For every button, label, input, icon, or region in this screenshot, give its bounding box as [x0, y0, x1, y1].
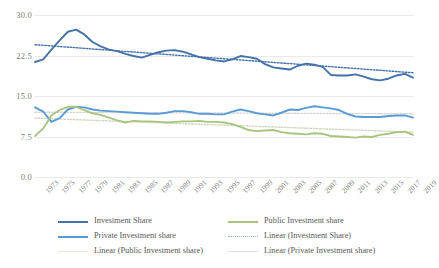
legend-swatch — [228, 221, 258, 223]
legend-swatch — [228, 236, 258, 237]
trendline — [35, 45, 413, 73]
x-axis-tick-label: 1977 — [76, 178, 93, 195]
series-line — [35, 107, 413, 138]
x-axis-tick-label: 1979 — [93, 178, 110, 195]
legend-swatch — [58, 236, 88, 238]
legend-label: Linear (Investment Share) — [264, 232, 351, 240]
x-axis-tick-label: 2013 — [372, 178, 389, 195]
x-axis-tick-label: 2017 — [405, 178, 422, 195]
x-axis-tick-label: 2019 — [421, 178, 438, 195]
legend-label: Investment Share — [94, 217, 152, 225]
x-axis-labels: 1973197519771979198119831985198719891991… — [35, 178, 413, 218]
x-axis-tick-label: 2009 — [339, 178, 356, 195]
legend-item[interactable]: Private Investment share — [58, 229, 228, 244]
plot-area: 0.07.515.022.530.0 — [0, 0, 420, 182]
legend-label: Private Investment share — [94, 232, 176, 240]
legend-swatch — [58, 221, 88, 223]
x-axis-tick-label: 1983 — [126, 178, 143, 195]
x-axis-tick-label: 1981 — [109, 178, 126, 195]
legend-label: Linear (Private Investment share) — [264, 247, 375, 255]
x-axis-tick-label: 1989 — [175, 178, 192, 195]
legend-swatch — [58, 251, 88, 252]
x-axis-tick-label: 1991 — [191, 178, 208, 195]
legend-item[interactable]: Public Investment share — [228, 214, 403, 229]
x-axis-tick-label: 2015 — [389, 178, 406, 195]
legend-item[interactable]: Investment Share — [58, 214, 228, 229]
legend-item[interactable]: Linear (Private Investment share) — [228, 244, 403, 259]
x-axis-tick-label: 1997 — [241, 178, 258, 195]
x-axis-tick-label: 2011 — [356, 178, 373, 195]
legend-item[interactable]: Linear (Investment Share) — [228, 229, 403, 244]
x-axis-tick-label: 2005 — [306, 178, 323, 195]
x-axis-tick-label: 1995 — [224, 178, 241, 195]
trendline — [35, 118, 413, 132]
series-line — [35, 30, 413, 81]
x-axis-tick-label: 2001 — [274, 178, 291, 195]
legend-swatch — [228, 251, 258, 252]
x-axis-tick-label: 1987 — [158, 178, 175, 195]
legend-label: Public Investment share — [264, 217, 344, 225]
x-axis-tick-label: 1985 — [142, 178, 159, 195]
x-axis-tick-label: 1999 — [257, 178, 274, 195]
chart-legend: Investment SharePublic Investment shareP… — [58, 214, 403, 262]
series-lines — [0, 0, 420, 182]
legend-label: Linear (Public Investment share) — [94, 247, 203, 255]
x-axis-tick-label: 2003 — [290, 178, 307, 195]
x-axis-tick-label: 1975 — [60, 178, 77, 195]
legend-item[interactable]: Linear (Public Investment share) — [58, 244, 228, 259]
x-axis-tick-label: 1973 — [43, 178, 60, 195]
x-axis-tick-label: 2007 — [323, 178, 340, 195]
x-axis-tick-label: 1993 — [208, 178, 225, 195]
